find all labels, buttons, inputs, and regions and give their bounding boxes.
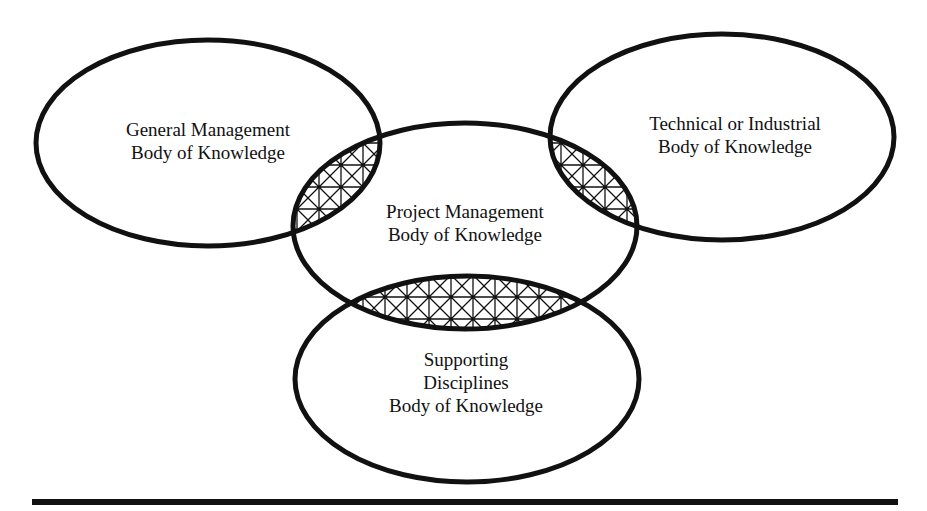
label-line: Project Management bbox=[386, 200, 544, 223]
label-line: Body of Knowledge bbox=[126, 141, 290, 164]
label-line: Body of Knowledge bbox=[649, 135, 821, 158]
label-supporting-disciplines: Supporting Disciplines Body of Knowledge bbox=[389, 348, 543, 417]
label-technical-industrial: Technical or Industrial Body of Knowledg… bbox=[649, 112, 821, 158]
label-line: General Management bbox=[126, 118, 290, 141]
label-project-management: Project Management Body of Knowledge bbox=[386, 200, 544, 246]
label-line: Disciplines bbox=[389, 371, 543, 394]
label-line: Body of Knowledge bbox=[386, 223, 544, 246]
label-line: Supporting bbox=[389, 348, 543, 371]
label-line: Body of Knowledge bbox=[389, 394, 543, 417]
label-general-management: General Management Body of Knowledge bbox=[126, 118, 290, 164]
label-line: Technical or Industrial bbox=[649, 112, 821, 135]
venn-diagram bbox=[0, 0, 927, 511]
bottom-rule-divider bbox=[32, 499, 898, 505]
